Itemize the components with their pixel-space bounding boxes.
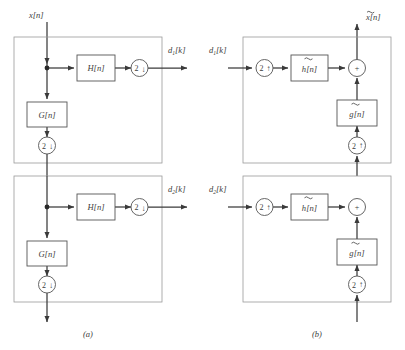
block-diagram: H[n] G[n] 2 ↓ 2 ↓ d1[k] <box>0 0 405 350</box>
panel-a-stage-2-downsampler-bottom-arrow-icon: ↓ <box>49 281 53 290</box>
panel-a-stage-1-downsampler-top-label: 2 <box>135 64 139 73</box>
panel-b-stage-1-adder-label: + <box>355 64 360 73</box>
panel-b-stage-2-lowpass-label: g[n] <box>349 248 364 258</box>
panel-a-stage-2-downsampler-top-arrow-icon: ↓ <box>142 204 146 213</box>
panel-a-stage-1-filter-label: H[n] <box>86 63 104 73</box>
panel-b-stage-2-input-label: d2[k] <box>209 184 226 195</box>
figure-canvas: H[n] G[n] 2 ↓ 2 ↓ d1[k] <box>0 0 405 350</box>
panel-a-stage-2-output-label: d2[k] <box>168 184 185 195</box>
panel-b-stage-2-upsampler-bottom-arrow-icon: ↑ <box>359 280 363 289</box>
panel-b-stage-1-upsampler-bottom-label: 2 <box>352 142 356 151</box>
panel-b-stage-2-upsampler-left-label: 2 <box>260 203 264 212</box>
panel-b-stage-1-upsampler-left-arrow-icon: ↑ <box>267 64 271 73</box>
panel-a-stage-1-downsampler-bottom-label: 2 <box>42 142 46 151</box>
panel-a-stage-2-downsampler-top-label: 2 <box>135 203 139 212</box>
panel-a-stage-2-lowpass-label: G[n] <box>38 249 55 259</box>
panel-a-input-label: x[n] <box>28 10 44 20</box>
panel-b: 2 ↑ h[n] + g[n] 2 ↑ d1[k] <box>209 11 391 339</box>
panel-b-stage-2-filter-label: h[n] <box>302 203 317 213</box>
panel-b-stage-1-upsampler-left-label: 2 <box>260 64 264 73</box>
panel-a-stage-2-downsampler-bottom-label: 2 <box>42 281 46 290</box>
panel-a-stage-2-junction-dot <box>45 205 50 210</box>
panel-b-caption: (b) <box>312 329 322 339</box>
panel-a-stage-1: H[n] G[n] 2 ↓ 2 ↓ d1[k] <box>14 37 187 176</box>
panel-b-stage-1-lowpass-label: g[n] <box>349 109 364 119</box>
panel-a-stage-2: H[n] G[n] 2 ↓ 2 ↓ d2[k] <box>14 176 187 322</box>
panel-a: H[n] G[n] 2 ↓ 2 ↓ d1[k] <box>14 10 187 339</box>
panel-a-stage-1-junction-dot <box>45 66 50 71</box>
panel-b-stage-2-upsampler-bottom-label: 2 <box>352 281 356 290</box>
panel-a-stage-1-lowpass-label: G[n] <box>38 110 55 120</box>
panel-b-stage-1: 2 ↑ h[n] + g[n] 2 ↑ d1[k] <box>209 37 391 176</box>
panel-a-stage-1-output-label: d1[k] <box>168 45 185 56</box>
panel-b-stage-2: 2 ↑ h[n] + g[n] 2 ↑ d2[k] <box>209 176 391 322</box>
panel-b-stage-2-adder-label: + <box>355 203 360 212</box>
panel-a-stage-2-filter-label: H[n] <box>86 202 104 212</box>
panel-b-stage-2-upsampler-left-arrow-icon: ↑ <box>267 203 271 212</box>
panel-b-stage-1-filter-label: h[n] <box>302 64 317 74</box>
panel-b-output-label: x[n] <box>365 12 381 22</box>
panel-a-caption: (a) <box>83 329 93 339</box>
panel-a-stage-1-downsampler-top-arrow-icon: ↓ <box>142 65 146 74</box>
panel-b-stage-1-upsampler-bottom-arrow-icon: ↑ <box>359 141 363 150</box>
panel-b-stage-1-input-label: d1[k] <box>209 45 226 56</box>
panel-a-stage-1-downsampler-bottom-arrow-icon: ↓ <box>49 142 53 151</box>
